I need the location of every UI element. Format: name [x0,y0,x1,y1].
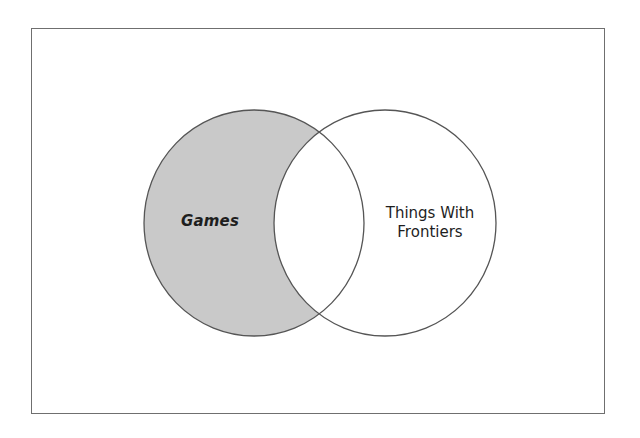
venn-diagram [0,0,640,438]
games-label: Games [170,212,250,231]
frontiers-label-line-1: Things With [370,204,490,223]
frontiers-label: Things With Frontiers [370,204,490,242]
frontiers-label-line-2: Frontiers [370,223,490,242]
